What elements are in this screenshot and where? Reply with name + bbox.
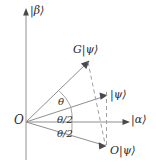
alpha-axis-arrowhead	[123, 119, 131, 125]
beta-axis-label: |β⟩	[30, 5, 44, 16]
gpsi-to-opsi-dashed-line	[88, 62, 106, 146]
grover-rotation-figure: |β⟩ |α⟩ G|ψ⟩ |ψ⟩ O|ψ⟩ O θ θ/2 θ/2	[0, 0, 156, 167]
theta-half-lower-label: θ/2	[57, 129, 73, 139]
alpha-axis-label: |α⟩	[131, 114, 146, 125]
theta-angle-label: θ	[58, 97, 64, 107]
g-psi-vector-label: G|ψ⟩	[73, 44, 98, 55]
o-psi-vector-label: O|ψ⟩	[110, 145, 136, 156]
origin-label: O	[14, 114, 24, 126]
theta-half-upper-label: θ/2	[57, 115, 73, 125]
beta-axis-arrowhead	[23, 8, 29, 16]
psi-vector-label: |ψ⟩	[110, 89, 127, 100]
figure-canvas	[0, 0, 156, 167]
